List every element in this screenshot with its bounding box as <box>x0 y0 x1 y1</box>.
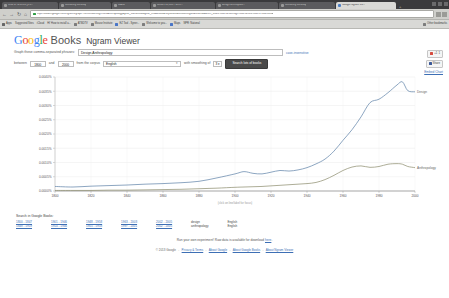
search-books-terms: design anthropology <box>191 221 208 229</box>
year-range-link[interactable]: 1914 - 1946 <box>51 225 67 228</box>
browser-tab[interactable]: MAKE <box>112 2 150 9</box>
about-google-link[interactable]: About Google <box>209 248 227 252</box>
books-wordmark[interactable]: Books <box>51 35 82 46</box>
tab-title: Ulearn 11,588 - unre... <box>157 4 183 7</box>
bookmark-item[interactable]: Apps <box>2 23 12 26</box>
chevron-down-icon: ▾ <box>218 62 220 66</box>
google-plus-one-button[interactable]: +1 1 <box>427 50 443 58</box>
bookmark-item[interactable]: Hi! How to install a... <box>47 23 71 26</box>
x-axis-tick-label: 2000 <box>411 194 418 198</box>
tab-favicon-icon <box>153 4 156 7</box>
about-ngram-viewer-link[interactable]: About Ngram Viewer <box>266 248 294 252</box>
forward-icon[interactable]: → <box>9 12 14 17</box>
year-range-link[interactable]: 1963 - 2003 <box>121 221 137 224</box>
search-books-columns: 1800 - 1847 1848 - 1919 1901 - 1946 1914… <box>16 221 449 229</box>
maximize-icon[interactable] <box>438 2 442 6</box>
bookmark-item[interactable]: Suggested Sites <box>15 23 34 26</box>
browser-tab-active[interactable]: Google Ngram Vie... <box>336 2 396 9</box>
and-label: and <box>49 62 55 65</box>
bookmark-label: NPR: National <box>183 23 199 26</box>
tab-favicon-icon <box>61 4 64 7</box>
share-icon <box>429 62 432 65</box>
tab-title: Google Ngram Vie... <box>342 4 365 7</box>
smoothing-select[interactable]: 3 ▾ <box>213 61 222 68</box>
y-axis-tick-label: 0.0010% <box>39 160 52 164</box>
x-axis-tick-label: 1900 <box>231 194 238 198</box>
back-icon[interactable]: ← <box>2 12 7 17</box>
corpus-label: from the corpus <box>77 62 101 65</box>
bookmark-item[interactable]: Welcome to you... <box>142 23 167 26</box>
bookmark-item[interactable]: ATBDTV <box>74 23 88 26</box>
google-logo[interactable]: Google <box>14 34 48 46</box>
bookmark-item[interactable]: Mouse Institute <box>91 23 113 26</box>
browser-tab[interactable]: Mendeley Desktop <box>279 2 335 9</box>
year-end-input[interactable]: 2000 <box>58 61 74 68</box>
menu-icon[interactable] <box>442 12 447 17</box>
year-range-link[interactable]: 1997 - 2001 <box>121 225 137 228</box>
browser-tab[interactable]: design anthropolo... <box>216 2 278 9</box>
series-label-anthropology[interactable]: Anthropology <box>417 165 436 169</box>
browser-chrome: Web of Science [v.5... Mendeley Desktop … <box>0 0 449 29</box>
year-range-link[interactable]: 1800 - 1847 <box>16 221 32 224</box>
options-row: between 1800 and 2000 from the corpus En… <box>14 59 449 69</box>
y-axis-tick-label: 0.0020% <box>39 132 52 136</box>
footer-separator: - <box>178 248 179 252</box>
search-term-label: anthropology <box>191 225 208 228</box>
year-range-link[interactable]: 2002 - 2005 <box>156 225 172 228</box>
toolbar-extensions[interactable] <box>436 12 448 17</box>
bookmark-label: Maps <box>174 23 180 26</box>
tab-title: design anthropolo... <box>222 4 245 7</box>
window-controls[interactable] <box>432 0 448 8</box>
browser-tab[interactable]: Mendeley Desktop <box>59 2 111 9</box>
x-axis-tick-label: 1940 <box>303 194 310 198</box>
year-start-input[interactable]: 1800 <box>30 61 46 68</box>
year-range-link[interactable]: 1901 - 1946 <box>51 221 67 224</box>
x-axis-tick-label: 1800 <box>51 194 58 198</box>
case-insensitive-toggle[interactable]: case-insensitive <box>286 51 309 55</box>
browser-tab[interactable]: Web of Science [v.5... <box>2 2 58 9</box>
privacy-terms-link[interactable]: Privacy & Terms <box>182 248 204 252</box>
bookmark-item[interactable]: Maps <box>170 23 180 26</box>
raw-data-note-suffix: . <box>271 238 272 242</box>
corpus-select[interactable]: English ▾ <box>103 61 181 68</box>
bookmark-favicon-icon <box>91 23 94 26</box>
chart-svg[interactable]: 0.0000%0.0005%0.0010%0.0015%0.0020%0.002… <box>0 73 449 208</box>
series-label-design[interactable]: Design <box>417 90 427 94</box>
reload-icon[interactable]: ↻ <box>16 12 21 17</box>
year-range-link[interactable]: 1948 - 1958 <box>86 221 102 224</box>
query-form: Graph these comma-separated phrases: Des… <box>0 49 449 69</box>
year-range-link[interactable]: 2002 - 2005 <box>156 221 172 224</box>
close-window-icon[interactable] <box>444 2 448 6</box>
home-icon[interactable]: ⌂ <box>23 12 28 17</box>
year-range-link[interactable]: 1848 - 1919 <box>16 225 32 228</box>
share-button[interactable]: Share <box>426 60 443 68</box>
bookmark-item[interactable]: EZ Tool - Syner... <box>115 23 139 26</box>
bookmark-item[interactable]: NPR: National <box>183 23 199 26</box>
search-button[interactable]: Search lots of books <box>225 59 268 69</box>
x-axis-tick-label: 1860 <box>159 194 166 198</box>
year-range-link[interactable]: 1955 - 1958 <box>86 225 102 228</box>
apps-grid-icon <box>2 23 5 26</box>
plus-one-count: 1 <box>438 52 440 55</box>
tab-title: Web of Science [v.5... <box>8 4 33 7</box>
search-books-column: 1948 - 1958 1955 - 1958 <box>86 221 102 229</box>
minimize-icon[interactable] <box>432 2 436 6</box>
smoothing-label: with smoothing of <box>184 62 210 65</box>
x-axis-tick-label: 1960 <box>339 194 346 198</box>
bookmarks-bar: Apps Suggested Sites iCloud Hi! How to i… <box>0 20 449 29</box>
query-input[interactable]: Design,Anthropology <box>78 49 283 56</box>
extension-icon[interactable] <box>436 12 441 17</box>
bookmark-item[interactable]: iCloud <box>37 23 44 26</box>
lock-icon <box>33 13 36 16</box>
tab-favicon-icon <box>218 4 221 7</box>
chart-caption: (click on line/label for focus) <box>218 201 253 205</box>
new-tab-button[interactable]: + <box>397 5 403 9</box>
url-text: https://books.google.com/ngrams/graph?co… <box>37 13 274 16</box>
tab-title: Mendeley Desktop <box>65 4 86 7</box>
tab-favicon-icon <box>4 4 7 7</box>
other-bookmarks-button[interactable]: Other bookmarks <box>423 23 447 26</box>
browser-tab[interactable]: Ulearn 11,588 - unre... <box>151 2 215 9</box>
ngram-chart[interactable]: 0.0000%0.0005%0.0010%0.0015%0.0020%0.002… <box>0 73 449 208</box>
about-google-books-link[interactable]: About Google Books <box>233 248 261 252</box>
address-bar[interactable]: https://books.google.com/ngrams/graph?co… <box>30 10 434 19</box>
